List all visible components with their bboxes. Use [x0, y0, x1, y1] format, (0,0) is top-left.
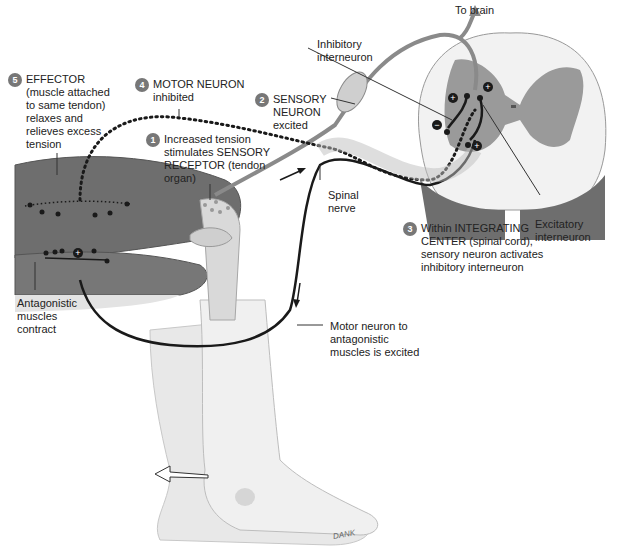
step-4-motor-neuron: 4 MOTOR NEURON inhibited: [135, 78, 244, 104]
step-1-sensory-receptor: 1 Increased tension stimulates SENSORY R…: [146, 133, 270, 185]
motor-neuron-antagonistic-label: Motor neuron to antagonistic muscles is …: [330, 320, 419, 359]
inhibitory-interneuron-label: Inhibitory interneuron: [317, 38, 373, 64]
svg-text:+: +: [485, 82, 490, 92]
svg-text:−: −: [434, 120, 439, 130]
sensory-direction-arrow: [280, 170, 302, 180]
step-badge: 2: [255, 93, 269, 107]
step-badge: 1: [146, 133, 160, 147]
step-3-integrating-center: 3 Within INTEGRATING CENTER (spinal cord…: [403, 222, 543, 274]
excitatory-interneuron-label: Excitatory interneuron: [535, 218, 591, 244]
step-badge: 5: [8, 73, 22, 87]
spinal-cord: [418, 33, 605, 240]
spinal-nerve-label: Spinal nerve: [328, 189, 359, 215]
step-5-effector: 5 EFFECTOR (muscle attached to same tend…: [8, 73, 110, 151]
step-badge: 4: [135, 78, 149, 92]
svg-text:+: +: [474, 141, 479, 151]
svg-text:+: +: [75, 248, 80, 258]
dorsal-root-ganglion: [331, 67, 374, 117]
step-2-sensory-neuron: 2 SENSORY NEURON excited: [255, 93, 327, 132]
antagonistic-muscles-label: Antagonistic muscles contract: [17, 297, 77, 336]
svg-text:+: +: [450, 93, 455, 103]
step-badge: 3: [403, 222, 417, 236]
to-brain-label: To brain: [455, 4, 494, 17]
motor-arrowhead: [293, 299, 300, 308]
